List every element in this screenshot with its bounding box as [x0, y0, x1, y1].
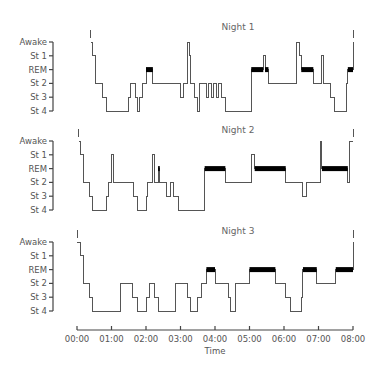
y-tick-label: St 1: [30, 51, 47, 61]
x-tick-label: 06:00: [272, 334, 297, 344]
rem-period-bar: [251, 67, 263, 72]
y-tick-label: St 4: [30, 106, 47, 116]
rem-period-bar: [250, 267, 276, 272]
panel-night-3: AwakeSt 1REMSt 2St 3St 4Night 3: [20, 226, 353, 316]
panel-night-1: AwakeSt 1REMSt 2St 3St 4Night 1: [20, 22, 353, 116]
rem-period-bar: [158, 166, 160, 171]
y-tick-label: St 1: [30, 251, 47, 261]
y-tick-label: Awake: [20, 37, 47, 47]
hypnogram-chart: AwakeSt 1REMSt 2St 3St 4Night 1AwakeSt 1…: [0, 0, 383, 370]
y-tick-label: Awake: [20, 237, 47, 247]
sleep-stage-trace: [79, 141, 353, 210]
panel-night-2: AwakeSt 1REMSt 2St 3St 4Night 2: [20, 125, 353, 215]
x-tick-label: 03:00: [168, 334, 193, 344]
panel-title: Night 1: [222, 22, 255, 32]
x-tick-label: 04:00: [203, 334, 228, 344]
rem-period-bar: [146, 67, 153, 72]
rem-period-bar: [348, 67, 353, 72]
y-tick-label: REM: [28, 65, 47, 75]
rem-period-bar: [205, 166, 226, 171]
y-tick-label: St 1: [30, 150, 47, 160]
sleep-stage-trace: [77, 242, 353, 311]
x-tick-label: 02:00: [134, 334, 159, 344]
x-tick-label: 00:00: [65, 334, 90, 344]
y-tick-label: St 2: [30, 78, 47, 88]
x-tick-label: 05:00: [237, 334, 262, 344]
rem-period-bar: [301, 67, 313, 72]
rem-period-bar: [265, 67, 268, 72]
y-tick-label: St 2: [30, 278, 47, 288]
x-axis-label: Time: [204, 346, 226, 356]
x-tick-label: 01:00: [99, 334, 124, 344]
y-tick-label: Awake: [20, 136, 47, 146]
y-tick-label: St 4: [30, 205, 47, 215]
rem-period-bar: [322, 166, 348, 171]
y-tick-label: St 3: [30, 292, 47, 302]
sleep-stage-trace: [91, 42, 353, 111]
panel-title: Night 2: [222, 125, 255, 135]
y-tick-label: REM: [28, 265, 47, 275]
panel-title: Night 3: [222, 226, 255, 236]
rem-period-bar: [255, 166, 286, 171]
x-tick-label: 07:00: [306, 334, 331, 344]
y-axis: AwakeSt 1REMSt 2St 3St 4: [20, 136, 53, 215]
rem-period-bar: [336, 267, 353, 272]
y-tick-label: St 3: [30, 92, 47, 102]
y-tick-label: St 2: [30, 177, 47, 187]
rem-period-bar: [303, 267, 317, 272]
x-axis: 00:0001:0002:0003:0004:0005:0006:0007:00…: [65, 326, 366, 356]
y-tick-label: St 4: [30, 306, 47, 316]
y-tick-label: REM: [28, 164, 47, 174]
y-axis: AwakeSt 1REMSt 2St 3St 4: [20, 37, 53, 116]
x-tick-label: 08:00: [341, 334, 366, 344]
y-axis: AwakeSt 1REMSt 2St 3St 4: [20, 237, 53, 316]
y-tick-label: St 3: [30, 191, 47, 201]
rem-period-bar: [206, 267, 215, 272]
